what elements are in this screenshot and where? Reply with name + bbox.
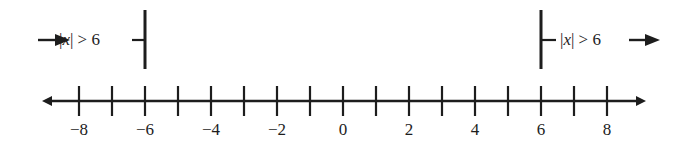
- tick-label-2: 2: [389, 120, 429, 140]
- tick-label-neg2: −2: [257, 120, 297, 140]
- tick-label-neg6: −6: [125, 120, 165, 140]
- tick-label-neg4: −4: [191, 120, 231, 140]
- number-line-figure: |x| > 6 |x| > 6 −8 −6 −4 −2 0 2 4 6 8: [0, 0, 683, 150]
- right-region-label-variable: x: [563, 30, 571, 49]
- tick-label-4: 4: [455, 120, 495, 140]
- tick-label-8: 8: [587, 120, 627, 140]
- left-region-label-suffix: | > 6: [70, 30, 100, 49]
- left-region-label-variable: x: [62, 30, 70, 49]
- tick-label-6: 6: [521, 120, 561, 140]
- tick-label-0: 0: [323, 120, 363, 140]
- tick-label-neg8: −8: [59, 120, 99, 140]
- right-region-label-suffix: | > 6: [571, 30, 601, 49]
- right-region-label: |x| > 6: [560, 30, 601, 50]
- left-region-label: |x| > 6: [59, 30, 100, 50]
